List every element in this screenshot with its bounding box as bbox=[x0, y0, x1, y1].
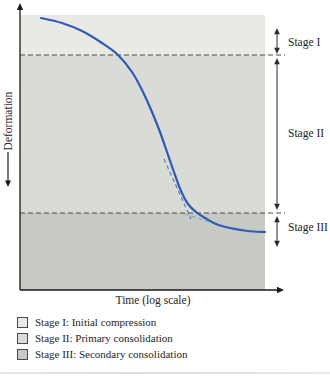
y-axis-arrowhead bbox=[17, 3, 23, 10]
stage-3-arrowhead-bottom bbox=[274, 241, 280, 247]
legend-item-stage-3: Stage III: Secondary consolidation bbox=[17, 349, 187, 360]
consolidation-figure: Deformation Time (log scale) Stage I Sta… bbox=[0, 0, 330, 379]
legend-label-stage-1: Stage I: Initial compression bbox=[35, 317, 156, 328]
stage-2-label: Stage II bbox=[288, 127, 324, 139]
stage-3-arrowhead-top bbox=[274, 216, 280, 222]
stage-3-swatch bbox=[17, 349, 28, 360]
legend: Stage I: Initial compression Stage II: P… bbox=[17, 317, 187, 365]
stage-1-arrowhead-top bbox=[274, 28, 280, 34]
legend-label-stage-3: Stage III: Secondary consolidation bbox=[35, 349, 187, 360]
x-axis-arrowhead bbox=[277, 287, 284, 293]
stage-2-swatch bbox=[17, 333, 28, 344]
stage-1-swatch bbox=[17, 317, 28, 328]
stage-1-arrowhead-bottom bbox=[274, 48, 280, 54]
legend-label-stage-2: Stage II: Primary consolidation bbox=[35, 333, 173, 344]
legend-item-stage-1: Stage I: Initial compression bbox=[17, 317, 187, 328]
deformation-direction-arrowhead bbox=[5, 180, 11, 187]
stage-2-arrowhead-top bbox=[274, 58, 280, 64]
legend-item-stage-2: Stage II: Primary consolidation bbox=[17, 333, 187, 344]
stage-3-label: Stage III bbox=[288, 221, 328, 233]
x-axis-label: Time (log scale) bbox=[83, 294, 223, 306]
stage-2-arrowhead-bottom bbox=[274, 204, 280, 210]
stage-band-2 bbox=[20, 55, 265, 213]
stage-1-label: Stage I bbox=[288, 36, 320, 48]
page-rule-line bbox=[0, 372, 330, 374]
y-axis-label: Deformation bbox=[2, 61, 14, 181]
stage-band-3 bbox=[20, 213, 265, 290]
